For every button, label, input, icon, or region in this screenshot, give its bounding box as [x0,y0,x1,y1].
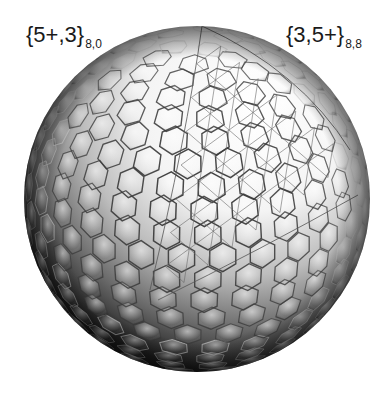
hexagon-sphere-diagram [0,0,391,394]
sphere-rim-shadow [24,26,370,372]
